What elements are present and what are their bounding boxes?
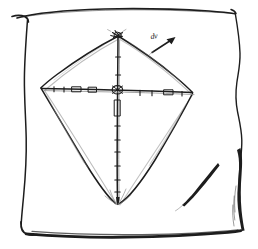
direction-arrow-label: dv <box>150 32 158 41</box>
paper-surface <box>20 9 244 238</box>
vertical-spar <box>117 37 118 203</box>
sketch-svg <box>0 0 258 249</box>
sketch-canvas: dv <box>0 0 258 249</box>
